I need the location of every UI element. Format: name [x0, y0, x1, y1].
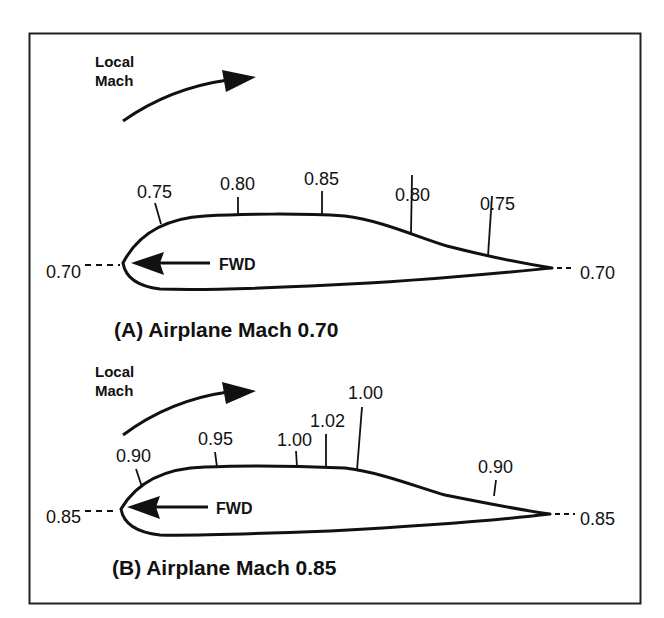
- surface-mach-b-5: 1.00: [348, 383, 383, 403]
- flow-arrow-icon: [123, 382, 256, 435]
- surface-mach-a-4: 0.80: [395, 185, 430, 205]
- panel-a: Local Mach 0.70 0.70 FWD 0.75 0.80 0.85 …: [46, 53, 615, 341]
- surface-mach-b-1: 0.90: [116, 446, 151, 466]
- trailing-edge-mach-a: 0.70: [580, 263, 615, 283]
- panel-b: Local Mach 0.85 0.85 FWD 0.90 0.95 1.00 …: [46, 363, 615, 579]
- trailing-edge-mach-b: 0.85: [580, 509, 615, 529]
- local-mach-label-a: Local: [95, 53, 134, 70]
- local-mach-label-a-line2: Mach: [95, 72, 133, 89]
- leading-edge-mach-a: 0.70: [46, 262, 81, 282]
- local-mach-label-b: Local: [95, 363, 134, 380]
- surface-mach-a-1: 0.75: [137, 182, 172, 202]
- surface-mach-a-5: 0.75: [480, 194, 515, 214]
- flow-arrow-icon: [123, 70, 256, 121]
- fwd-label-a: FWD: [219, 256, 255, 273]
- leading-edge-mach-b: 0.85: [46, 507, 81, 527]
- surface-mach-b-2: 0.95: [198, 429, 233, 449]
- surface-mach-b-6: 0.90: [478, 457, 513, 477]
- caption-b: (B) Airplane Mach 0.85: [112, 556, 337, 579]
- surface-mach-a-3: 0.85: [304, 169, 339, 189]
- fwd-label-b: FWD: [216, 500, 252, 517]
- surface-mach-a-2: 0.80: [220, 174, 255, 194]
- local-mach-label-b-line2: Mach: [95, 382, 133, 399]
- caption-a: (A) Airplane Mach 0.70: [114, 318, 338, 341]
- surface-mach-b-3: 1.00: [277, 430, 312, 450]
- airfoil-mach-diagram: Local Mach 0.70 0.70 FWD 0.75 0.80 0.85 …: [0, 0, 664, 618]
- surface-mach-b-4: 1.02: [310, 411, 345, 431]
